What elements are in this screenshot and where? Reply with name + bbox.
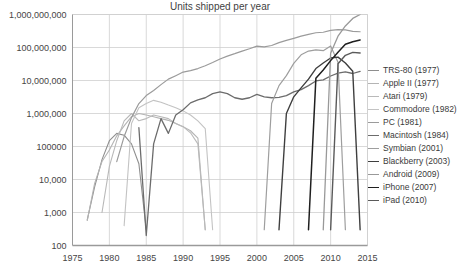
- svg-text:10,000: 10,000: [39, 175, 67, 185]
- legend-label: Blackberry (2003): [383, 155, 450, 168]
- legend-color-swatch: [368, 122, 379, 123]
- legend-item-ipad[interactable]: iPad (2010): [368, 194, 475, 207]
- chart-container: Units shipped per year 1,000,000,000100,…: [0, 0, 475, 278]
- svg-text:1995: 1995: [210, 253, 230, 263]
- grid-lines: [73, 15, 368, 246]
- legend-item-macintosh[interactable]: Macintosh (1984): [368, 129, 475, 142]
- legend-color-swatch: [368, 174, 379, 175]
- legend-item-symbian[interactable]: Symbian (2001): [368, 142, 475, 155]
- legend-color-swatch: [368, 70, 379, 71]
- svg-text:10,000,000: 10,000,000: [21, 76, 66, 86]
- legend-item-iphone[interactable]: iPhone (2007): [368, 181, 475, 194]
- legend-item-atari[interactable]: Atari (1979): [368, 90, 475, 103]
- legend-item-apple[interactable]: Apple II (1977): [368, 77, 475, 90]
- legend-color-swatch: [368, 135, 379, 136]
- svg-text:100,000,000: 100,000,000: [16, 43, 66, 53]
- legend-item-commodore[interactable]: Commodore (1982): [368, 103, 475, 116]
- legend-item-pc[interactable]: PC (1981): [368, 116, 475, 129]
- legend-color-swatch: [368, 83, 379, 84]
- svg-text:2015: 2015: [357, 253, 377, 263]
- legend-label: TRS-80 (1977): [383, 64, 439, 77]
- legend-label: Commodore (1982): [383, 103, 457, 116]
- series-line: [117, 30, 360, 162]
- legend-item-android[interactable]: Android (2009): [368, 168, 475, 181]
- series-line: [264, 46, 345, 230]
- legend-item-trs-80[interactable]: TRS-80 (1977): [368, 64, 475, 77]
- svg-text:1,000,000,000: 1,000,000,000: [9, 10, 67, 20]
- svg-text:2010: 2010: [321, 253, 341, 263]
- series-line: [87, 133, 146, 229]
- svg-text:1980: 1980: [99, 253, 119, 263]
- svg-text:2005: 2005: [284, 253, 304, 263]
- svg-text:1975: 1975: [62, 253, 82, 263]
- svg-text:1990: 1990: [173, 253, 193, 263]
- legend-label: Macintosh (1984): [383, 129, 449, 142]
- legend-color-swatch: [368, 148, 379, 149]
- legend-label: Atari (1979): [383, 90, 427, 103]
- chart-legend: TRS-80 (1977)Apple II (1977)Atari (1979)…: [368, 64, 475, 207]
- legend-label: Apple II (1977): [383, 77, 439, 90]
- legend-color-swatch: [368, 109, 379, 110]
- x-axis-tick-labels: 197519801985199019952000200520102015: [62, 253, 377, 263]
- legend-label: Android (2009): [383, 168, 439, 181]
- legend-label: iPhone (2007): [383, 181, 436, 194]
- svg-text:100000: 100000: [36, 142, 66, 152]
- legend-label: Symbian (2001): [383, 142, 443, 155]
- y-axis-tick-labels: 1,000,000,000100,000,00010,000,0001,000,…: [9, 10, 67, 251]
- legend-label: PC (1981): [383, 116, 422, 129]
- legend-color-swatch: [368, 187, 379, 188]
- series-line: [279, 57, 360, 230]
- legend-color-swatch: [368, 161, 379, 162]
- legend-color-swatch: [368, 96, 379, 97]
- svg-text:100: 100: [51, 241, 66, 251]
- svg-text:1,000: 1,000: [44, 208, 67, 218]
- svg-text:1,000,000: 1,000,000: [26, 109, 66, 119]
- legend-color-swatch: [368, 200, 379, 201]
- svg-text:1985: 1985: [136, 253, 156, 263]
- svg-text:2000: 2000: [247, 253, 267, 263]
- legend-label: iPad (2010): [383, 194, 427, 207]
- legend-item-blackberry[interactable]: Blackberry (2003): [368, 155, 475, 168]
